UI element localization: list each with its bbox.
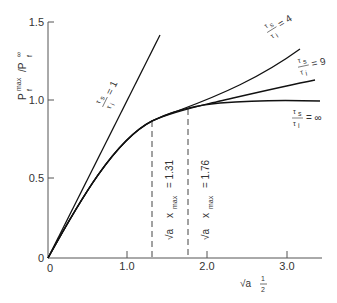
svg-text:s: s bbox=[298, 110, 302, 117]
svg-text:= ∞: = ∞ bbox=[306, 112, 322, 123]
svg-text:s: s bbox=[268, 20, 275, 28]
svg-text:/P: /P bbox=[17, 62, 28, 72]
svg-text:max: max bbox=[15, 77, 22, 91]
svg-text:i: i bbox=[274, 32, 279, 39]
label-ratio-inf: τ s τ i = ∞ bbox=[292, 108, 322, 129]
chart: 1.5 1.0 0.5 0 0 1.0 2.0 3.0 P max f /P ∞… bbox=[0, 0, 337, 303]
x-tick-3.0: 3.0 bbox=[279, 260, 294, 272]
svg-text:1: 1 bbox=[261, 275, 265, 282]
svg-text:x: x bbox=[200, 213, 211, 218]
y-tick-1.0: 1.0 bbox=[29, 94, 44, 106]
y-tick-0: 0 bbox=[38, 252, 44, 264]
svg-text:∞: ∞ bbox=[15, 52, 22, 57]
svg-text:τ: τ bbox=[293, 108, 296, 115]
svg-text:√a: √a bbox=[164, 229, 175, 240]
svg-text:√a: √a bbox=[240, 278, 251, 289]
svg-text:max: max bbox=[207, 195, 214, 209]
svg-text:= 1: = 1 bbox=[103, 79, 119, 97]
svg-text:= 9: = 9 bbox=[310, 55, 327, 69]
svg-text:s: s bbox=[98, 94, 106, 101]
svg-text:τ: τ bbox=[299, 68, 303, 75]
svg-text:2: 2 bbox=[261, 286, 265, 293]
svg-text:f: f bbox=[26, 55, 33, 57]
y-axis-label: P max f /P ∞ f bbox=[15, 52, 33, 100]
curve-ratio-4 bbox=[48, 49, 300, 258]
svg-text:√a: √a bbox=[200, 229, 211, 240]
x-tick-1.0: 1.0 bbox=[119, 260, 134, 272]
svg-text:i: i bbox=[305, 69, 308, 76]
svg-text:f: f bbox=[26, 89, 33, 91]
svg-text:s: s bbox=[302, 57, 307, 65]
x-tick-0: 0 bbox=[47, 262, 53, 274]
svg-text:i: i bbox=[298, 122, 300, 129]
svg-text:= 1.76: = 1.76 bbox=[200, 159, 211, 188]
y-tick-1.5: 1.5 bbox=[29, 16, 44, 28]
y-ticks: 1.5 1.0 0.5 0 bbox=[29, 16, 54, 264]
annotation-xmax-1.31: √a x max = 1.31 bbox=[164, 159, 178, 240]
label-ratio-9: τ s τ i = 9 bbox=[296, 51, 328, 77]
curve-ratio-inf bbox=[48, 100, 320, 258]
x-tick-2.0: 2.0 bbox=[199, 260, 214, 272]
label-ratio-4: τ s τ i = 4 bbox=[262, 9, 297, 42]
x-ticks: 0 1.0 2.0 3.0 bbox=[47, 251, 295, 274]
curve-ratio-1 bbox=[48, 35, 160, 258]
svg-text:max: max bbox=[171, 195, 178, 209]
annotation-xmax-1.76: √a x max = 1.76 bbox=[200, 159, 214, 240]
svg-text:τ: τ bbox=[297, 57, 301, 64]
svg-text:x: x bbox=[164, 213, 175, 218]
x-axis-label: √a 1 2 bbox=[240, 275, 267, 293]
svg-text:= 1.31: = 1.31 bbox=[164, 159, 175, 188]
svg-text:P: P bbox=[17, 93, 28, 100]
curve-ratio-9 bbox=[48, 80, 315, 258]
svg-text:i: i bbox=[109, 101, 116, 106]
label-ratio-1: τ s τ i = 1 bbox=[94, 77, 125, 112]
svg-text:τ: τ bbox=[293, 120, 296, 127]
svg-text:= 4: = 4 bbox=[276, 12, 294, 29]
y-tick-0.5: 0.5 bbox=[29, 172, 44, 184]
